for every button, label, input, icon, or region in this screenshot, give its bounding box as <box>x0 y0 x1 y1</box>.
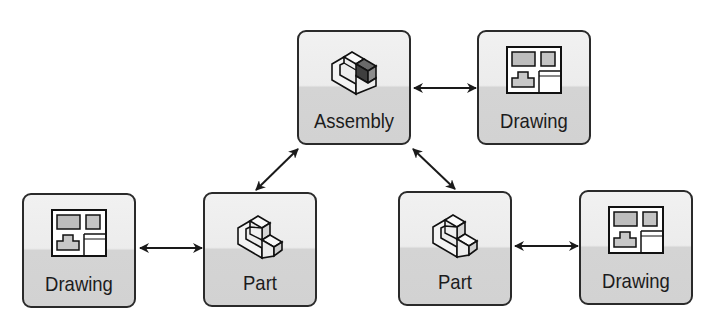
drawing-icon <box>608 206 664 260</box>
node-label: Drawing <box>31 272 128 296</box>
node-label: Drawing <box>486 109 583 133</box>
node-label: Assembly <box>306 109 403 133</box>
node-label: Part <box>212 271 309 295</box>
node-drawing-left[interactable]: Drawing <box>22 193 136 308</box>
arrow-assembly-part-left <box>256 149 298 190</box>
drawing-icon <box>51 209 107 263</box>
node-part-left[interactable]: Part <box>203 192 317 307</box>
node-drawing-right[interactable]: Drawing <box>579 190 693 305</box>
drawing-icon <box>506 46 562 100</box>
node-assembly[interactable]: Assembly <box>297 30 411 145</box>
node-part-right[interactable]: Part <box>398 191 512 306</box>
arrow-assembly-part-right <box>413 149 455 189</box>
node-label: Part <box>407 270 504 294</box>
node-drawing-top[interactable]: Drawing <box>477 30 591 145</box>
part-icon <box>234 208 286 264</box>
part-icon <box>429 207 481 263</box>
node-label: Drawing <box>588 269 685 293</box>
assembly-icon <box>328 46 380 102</box>
